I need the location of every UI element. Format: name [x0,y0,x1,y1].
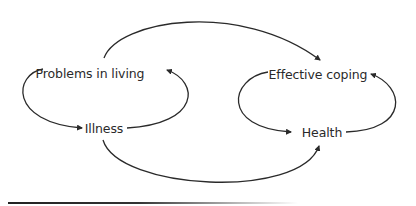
node-problems-in-living: Problems in living [36,66,145,81]
node-effective-coping: Effective coping [269,67,368,82]
node-illness: Illness [85,121,124,136]
arrow-health-to-coping [346,74,396,132]
arrow-illness-to-health [103,140,319,182]
bottom-rule-divider [8,202,298,204]
diagram-arrows [0,0,416,206]
arrow-problems-to-coping [104,22,320,60]
node-health: Health [302,125,342,140]
